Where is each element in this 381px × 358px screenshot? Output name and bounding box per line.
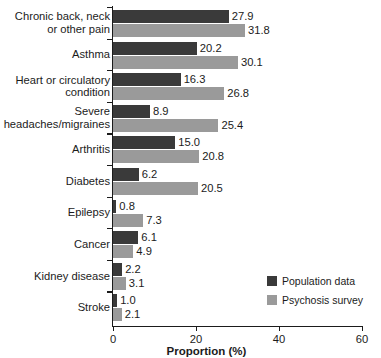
y-axis-tick	[107, 197, 112, 198]
bar-value-label: 20.2	[197, 42, 222, 55]
category-label: Diabetes	[0, 175, 110, 188]
bar-pop	[113, 263, 122, 276]
legend-label: Population data	[282, 275, 355, 287]
bar-pop	[113, 42, 197, 55]
bar-value-label: 15.0	[175, 136, 200, 149]
category-label: Kidney disease	[0, 270, 110, 283]
x-axis-tick-label: 20	[190, 333, 202, 345]
x-axis-tick	[279, 326, 280, 331]
y-axis-tick	[107, 39, 112, 40]
y-axis-tick	[107, 7, 112, 8]
bar-psy	[113, 56, 238, 69]
bar-group: 6.220.5	[113, 168, 362, 196]
bar-value-label: 30.1	[238, 56, 263, 69]
category-label: Asthma	[0, 48, 110, 61]
category-label: Stroke	[0, 301, 110, 314]
bar-group: 0.87.3	[113, 200, 362, 228]
y-axis-tick	[107, 133, 112, 134]
y-axis-tick	[107, 260, 112, 261]
bar-value-label: 6.2	[139, 168, 158, 181]
bar-value-label: 7.3	[143, 214, 162, 227]
bar-value-label: 25.4	[218, 119, 243, 132]
bar-value-label: 4.9	[133, 245, 152, 258]
legend-item: Population data	[267, 273, 363, 289]
bar-pop	[113, 10, 229, 23]
bar-psy	[113, 308, 122, 321]
x-axis-tick-label: 40	[273, 333, 285, 345]
legend-swatch	[267, 295, 277, 305]
bar-pop	[113, 136, 175, 149]
bar-pop	[113, 168, 139, 181]
category-label: Severe headaches/migraines	[0, 105, 110, 130]
bar-value-label: 20.8	[199, 150, 224, 163]
bar-group: 16.326.8	[113, 73, 362, 101]
bar-value-label: 27.9	[229, 10, 254, 23]
bar-value-label: 6.1	[138, 231, 157, 244]
bar-value-label: 1.0	[117, 294, 136, 307]
x-axis-tick-label: 0	[110, 333, 116, 345]
bar-value-label: 26.8	[224, 87, 249, 100]
bar-group: 27.931.8	[113, 10, 362, 38]
bar-value-label: 16.3	[181, 73, 206, 86]
bar-pop	[113, 73, 181, 86]
bar-value-label: 31.8	[245, 24, 270, 37]
y-axis-tick	[107, 165, 112, 166]
chart-legend: Population dataPsychosis survey	[267, 273, 363, 311]
x-axis-tick	[113, 326, 114, 331]
bar-psy	[113, 24, 245, 37]
bar-group: 15.020.8	[113, 136, 362, 164]
bar-group: 8.925.4	[113, 105, 362, 133]
bar-value-label: 8.9	[150, 105, 169, 118]
y-axis-tick	[107, 102, 112, 103]
bar-group: 6.14.9	[113, 231, 362, 259]
bar-psy	[113, 214, 143, 227]
x-axis-tick-label: 60	[356, 333, 368, 345]
bar-psy	[113, 119, 218, 132]
legend-item: Psychosis survey	[267, 292, 363, 308]
bar-value-label: 3.1	[126, 277, 145, 290]
category-label: Cancer	[0, 238, 110, 251]
bar-chart: Chronic back, neck or other painAsthmaHe…	[0, 0, 381, 358]
category-label: Arthritis	[0, 143, 110, 156]
x-axis-tick	[362, 326, 363, 331]
bar-psy	[113, 182, 198, 195]
category-label: Chronic back, neck or other pain	[0, 10, 110, 35]
y-axis-tick	[107, 291, 112, 292]
category-label: Epilepsy	[0, 206, 110, 219]
x-axis-title: Proportion (%)	[0, 345, 381, 357]
bar-group: 20.230.1	[113, 42, 362, 70]
bar-psy	[113, 277, 126, 290]
legend-label: Psychosis survey	[282, 294, 363, 306]
bar-pop	[113, 231, 138, 244]
x-axis-line	[112, 326, 363, 327]
y-axis-tick	[107, 228, 112, 229]
y-axis-tick	[107, 70, 112, 71]
bar-value-label: 0.8	[116, 200, 135, 213]
x-axis-tick	[196, 326, 197, 331]
bar-value-label: 20.5	[198, 182, 223, 195]
category-label: Heart or circulatory condition	[0, 74, 110, 99]
bar-value-label: 2.2	[122, 263, 141, 276]
bar-psy	[113, 150, 199, 163]
legend-swatch	[267, 276, 277, 286]
bar-value-label: 2.1	[122, 308, 141, 321]
bar-psy	[113, 87, 224, 100]
bar-psy	[113, 245, 133, 258]
bar-pop	[113, 105, 150, 118]
